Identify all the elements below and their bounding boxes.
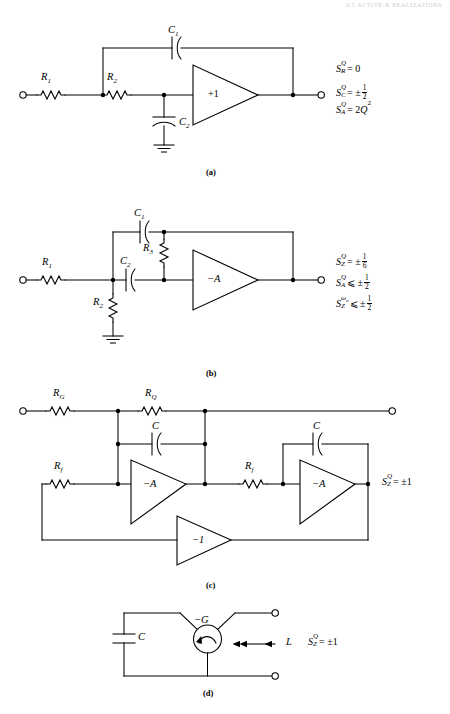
amplifier-label-plus1-fig-a: +1 [208, 89, 219, 99]
figure-caption-b: (b) [206, 368, 216, 378]
label-minusG-fig-d: −G [194, 615, 209, 626]
amplifier-label-minus1-fig-c: −1 [192, 535, 204, 546]
sensitivity-SC-Q-fig-a: SQC = ±12 [336, 84, 367, 101]
label-C1-fig-a: C1 [168, 25, 179, 38]
label-C2-fig-b: C2 [120, 256, 131, 269]
label-Rf-left-fig-c: Rf [54, 461, 62, 474]
sensitivity-SZ-omega-fig-b: SωoZ ⩽ ±12 [336, 295, 372, 312]
label-RQ-fig-c: RQ [145, 388, 156, 401]
sensitivity-SZ-Q-fig-c: SQZ = ±1 [382, 477, 412, 487]
label-C1-fig-b: C1 [134, 208, 145, 221]
label-C-right-fig-c: C [313, 421, 320, 432]
label-R2-fig-a: R2 [107, 72, 117, 85]
figure-caption-d: (d) [203, 688, 213, 698]
label-R1-fig-a: R1 [41, 72, 51, 85]
label-C-left-fig-c: C [152, 421, 159, 432]
figure-caption-c: (c) [206, 580, 215, 590]
label-L-fig-d: L [286, 637, 292, 648]
label-R2-fig-b: R2 [93, 297, 103, 310]
sensitivity-SZ-Q-fig-b: SQZ = ±16 [336, 253, 367, 270]
sensitivity-SA-Q-fig-b: SQA ⩽ ±12 [336, 274, 370, 291]
amplifier-label-minusA-left-fig-c: −A [143, 479, 157, 490]
figure-caption-a: (a) [206, 167, 216, 177]
label-Rf-right-fig-c: Rf [245, 461, 253, 474]
figure-page: 6.5 ACTIVE-R REALIZATIONS [0, 0, 450, 714]
circuit-artwork [0, 0, 450, 714]
sensitivity-SA-Q-fig-a: SQA = 2Q2 [336, 105, 367, 115]
amplifier-label-minusA-right-fig-c: −A [312, 479, 326, 490]
label-RG-fig-c: RG [53, 388, 64, 401]
sensitivity-SR-Q-fig-a: SQR = 0 [336, 64, 360, 74]
label-R3-fig-b: R3 [143, 243, 153, 256]
label-C-fig-d: C [138, 632, 145, 643]
label-R1-fig-b: R1 [42, 257, 52, 270]
label-C2-fig-a: C2 [179, 117, 190, 130]
amplifier-label-minusA-fig-b: −A [207, 274, 221, 285]
sensitivity-SZ-Q-fig-d: SQZ = ±1 [308, 637, 338, 647]
